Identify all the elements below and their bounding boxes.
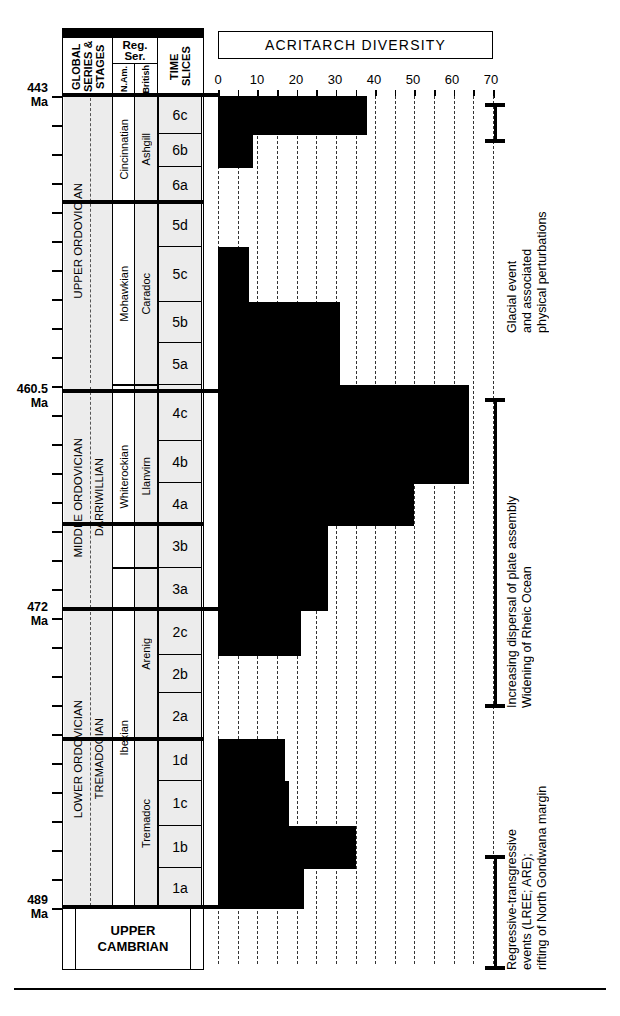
x-axis-tick-labels: 0 10 20 30 40 50 60 70 bbox=[210, 72, 510, 90]
age-label-4605-value: 460.5 bbox=[2, 383, 48, 396]
nam-series-cell-2: Whiterockian bbox=[113, 385, 134, 568]
regional-series-header: Reg. Ser. bbox=[113, 38, 158, 64]
annotation-dispersal-line1: Increasing dispersal of plate assembly bbox=[505, 496, 519, 708]
age-tick bbox=[52, 357, 62, 359]
age-tick bbox=[52, 908, 62, 910]
chart-gridline-60 bbox=[454, 96, 455, 964]
chart-gridline-65 bbox=[473, 96, 474, 964]
global-stage-name: TREMADOCIAN bbox=[88, 610, 110, 908]
chart-marker-4605 bbox=[204, 389, 220, 393]
time-slice-cell-1b: 1b bbox=[158, 826, 202, 868]
footer-line1: UPPER bbox=[111, 923, 156, 938]
bar-6c bbox=[218, 96, 367, 135]
time-slice-label: 2c bbox=[173, 624, 188, 640]
age-tick bbox=[52, 125, 62, 127]
time-slice-label: 1a bbox=[172, 880, 188, 896]
boundary-line-4605 bbox=[62, 389, 204, 393]
time-slice-label: 4a bbox=[172, 496, 188, 512]
stratigraphic-chart-figure: ACRITARCH DIVERSITY 0 10 20 30 40 50 60 … bbox=[0, 0, 620, 1016]
footer-line2: CAMBRIAN bbox=[98, 939, 169, 954]
global-series-header: GLOBAL SERIES & STAGES bbox=[64, 38, 113, 96]
bracket-glacial bbox=[485, 103, 505, 143]
age-tick bbox=[52, 386, 62, 388]
annotation-regressive-line1: Regressive-transgressive bbox=[505, 829, 519, 970]
bar-3b bbox=[218, 525, 328, 569]
upper-cambrian-box: UPPER CAMBRIAN bbox=[62, 908, 204, 970]
age-tick bbox=[52, 879, 62, 881]
nam-series-label: Cincinnatian bbox=[118, 119, 130, 180]
time-slice-cell-4a: 4a bbox=[158, 483, 202, 525]
age-tick bbox=[52, 531, 62, 533]
age-label-489-value: 489 bbox=[2, 894, 48, 907]
global-series-header-text: GLOBAL SERIES & STAGES bbox=[70, 38, 106, 95]
bar-1c bbox=[218, 781, 289, 827]
figure-bottom-rule bbox=[14, 988, 606, 990]
annotation-glacial: Glacial event and associated physical pe… bbox=[505, 103, 550, 333]
age-label-472-unit: Ma bbox=[2, 615, 48, 628]
age-tick bbox=[52, 270, 62, 272]
age-label-443-value: 443 bbox=[2, 82, 48, 95]
time-slice-label: 6b bbox=[172, 142, 188, 158]
time-slice-label: 3b bbox=[172, 538, 188, 554]
time-slice-label: 6a bbox=[172, 177, 188, 193]
nam-series-header-text: N.Am. bbox=[119, 66, 129, 92]
time-slice-cell-3b: 3b bbox=[158, 525, 202, 568]
x-tick-label-30: 30 bbox=[320, 72, 350, 87]
global-stage-name: DARRIWILLIAN bbox=[88, 385, 110, 610]
chart-gridline-45 bbox=[395, 96, 396, 964]
time-slice-cell-6a: 6a bbox=[158, 167, 202, 203]
time-slice-label: 4c bbox=[173, 405, 188, 421]
age-tick bbox=[52, 792, 62, 794]
british-series-column: AshgillCaradocLlanvirnArenigTremadoc bbox=[135, 96, 158, 908]
time-slice-cell-2a: 2a bbox=[158, 693, 202, 739]
nam-series-label: Whiterockian bbox=[118, 445, 130, 509]
nam-series-header: N.Am. bbox=[113, 64, 135, 96]
chart-title-text: ACRITARCH DIVERSITY bbox=[265, 37, 446, 53]
annotation-regressive-line3: rifting of North Gondwana margin bbox=[535, 786, 549, 970]
age-tick bbox=[52, 734, 62, 736]
boundary-line-sandbian bbox=[62, 200, 204, 204]
bar-2c bbox=[218, 610, 301, 656]
time-slice-cell-2c: 2c bbox=[158, 610, 202, 655]
chart-marker-489 bbox=[204, 905, 220, 909]
age-label-443-unit: Ma bbox=[2, 96, 48, 109]
age-tick bbox=[52, 763, 62, 765]
bar-1d bbox=[218, 739, 285, 782]
age-tick bbox=[52, 676, 62, 678]
annotation-dispersal: Increasing dispersal of plate assembly W… bbox=[505, 398, 535, 708]
time-slice-cell-1d: 1d bbox=[158, 739, 202, 781]
chart-gridline-55 bbox=[434, 96, 435, 964]
x-tick-label-60: 60 bbox=[437, 72, 467, 87]
annotation-glacial-line1: Glacial event bbox=[505, 261, 519, 333]
boundary-line-floian bbox=[62, 737, 204, 741]
time-slices-header-text: TIME SLICES bbox=[168, 38, 192, 95]
global-series-name: MIDDLE ORDOVICIAN bbox=[66, 385, 90, 610]
annotation-regressive-line2: events (LREE; ARE); bbox=[520, 853, 534, 970]
age-tick bbox=[52, 618, 62, 620]
british-series-header: British bbox=[135, 64, 158, 96]
age-tick bbox=[52, 850, 62, 852]
x-tick-label-50: 50 bbox=[398, 72, 428, 87]
time-slice-label: 4b bbox=[172, 454, 188, 470]
nam-series-label: Mohawkian bbox=[118, 266, 130, 322]
age-label-4605-unit: Ma bbox=[2, 397, 48, 410]
boundary-line-472 bbox=[62, 607, 204, 611]
global-series-band-0: UPPER ORDOVICIAN bbox=[64, 96, 113, 385]
annotation-glacial-line2: and associated bbox=[520, 249, 534, 333]
bracket-regressive bbox=[485, 855, 505, 970]
age-tick bbox=[52, 444, 62, 446]
bar-3a bbox=[218, 568, 328, 611]
time-slice-label: 5c bbox=[173, 266, 188, 282]
time-slice-label: 6c bbox=[173, 107, 188, 123]
age-tick bbox=[52, 212, 62, 214]
chart-title-box: ACRITARCH DIVERSITY bbox=[218, 31, 493, 59]
regional-series-header-text: Reg. Ser. bbox=[113, 40, 157, 62]
nam-series-column: CincinnatianMohawkianWhiterockianIbexian bbox=[113, 96, 135, 908]
time-slices-header: TIME SLICES bbox=[158, 38, 202, 96]
age-tick bbox=[52, 502, 62, 504]
time-slice-label: 1b bbox=[172, 839, 188, 855]
chart-marker-472 bbox=[204, 607, 220, 611]
annotation-dispersal-line2: Widening of Rheic Ocean bbox=[520, 566, 534, 708]
global-series-name: LOWER ORDOVICIAN bbox=[66, 610, 90, 908]
chart-gridline-50 bbox=[414, 96, 415, 964]
